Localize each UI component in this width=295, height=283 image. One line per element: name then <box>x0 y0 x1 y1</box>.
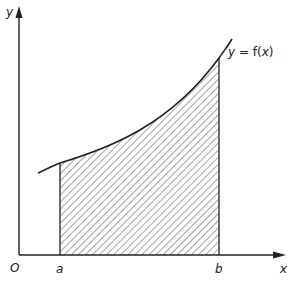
y-axis-arrow-icon <box>16 6 23 18</box>
area-under-curve-diagram: y O a b x y = f(x) <box>0 0 295 283</box>
y-axis <box>16 6 23 255</box>
a-label: a <box>56 262 63 276</box>
x-axis-arrow-icon <box>273 252 286 259</box>
x-axis-label: x <box>279 262 288 276</box>
curve-label-eq: = f( <box>235 45 262 59</box>
y-axis-label: y <box>5 5 14 19</box>
curve-label-close: ) <box>269 45 274 59</box>
curve-label: y = f(x) <box>227 45 274 59</box>
origin-label: O <box>10 261 19 275</box>
b-label: b <box>215 262 223 276</box>
